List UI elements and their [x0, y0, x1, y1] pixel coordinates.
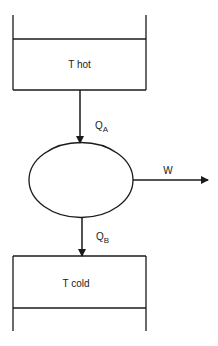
hot-reservoir-label: T hot [68, 59, 91, 70]
heat-in-subscript: A [103, 125, 109, 134]
engine-ellipse [29, 143, 133, 218]
work-label: W [163, 165, 173, 176]
cold-reservoir: T cold [13, 256, 146, 331]
heat-in-label: QA [95, 120, 109, 134]
heat-out-flow: QB [82, 217, 109, 256]
heat-engine-diagram: T hot QA W QB T cold [0, 0, 218, 346]
hot-reservoir: T hot [13, 15, 146, 90]
work-flow: W [133, 165, 208, 180]
heat-out-subscript: B [104, 236, 109, 245]
heat-in-flow: QA [80, 90, 109, 143]
heat-out-label: QB [96, 231, 109, 245]
cold-reservoir-label: T cold [62, 278, 89, 289]
